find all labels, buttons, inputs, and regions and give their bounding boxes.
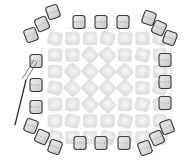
fill-bead (117, 113, 134, 129)
fill-bead (80, 62, 99, 81)
fill-bead (47, 30, 64, 46)
fill-bead (99, 30, 116, 46)
edge-beads (23, 4, 178, 156)
fill-bead (63, 62, 82, 81)
fill-bead (98, 62, 117, 81)
fill-bead (98, 45, 117, 64)
needle-icon (15, 80, 26, 125)
fill-bead (66, 49, 80, 62)
needle-and-thread (15, 60, 37, 125)
fill-bead (136, 115, 150, 128)
fill-bead (83, 115, 97, 128)
edge-bead (95, 16, 107, 29)
edge-bead (34, 16, 50, 33)
fill-bead (118, 32, 132, 45)
fill-bead (134, 47, 151, 63)
edge-bead (159, 76, 171, 89)
fill-bead (136, 32, 150, 45)
fill-bead (48, 49, 62, 62)
beadwork-diagram (0, 0, 188, 165)
fill-bead (98, 78, 117, 97)
edge-bead (23, 27, 39, 43)
edge-bead (30, 55, 42, 68)
edge-bead (34, 129, 50, 146)
fill-bead (118, 98, 132, 111)
fill-bead (115, 62, 134, 81)
fill-bead (63, 78, 82, 97)
edge-bead (159, 97, 171, 110)
fill-bead (101, 115, 115, 128)
fill-bead (80, 45, 99, 64)
fill-bead (66, 98, 80, 111)
fill-bead (134, 96, 151, 112)
edge-bead (23, 118, 39, 134)
fill-beads (47, 30, 169, 145)
fill-bead (64, 113, 81, 129)
edge-bead (30, 101, 42, 114)
edge-bead (117, 16, 129, 29)
fill-bead (47, 80, 64, 96)
edge-bead (45, 4, 61, 20)
edge-bead (118, 137, 130, 150)
fill-bead (136, 82, 150, 95)
edge-bead (73, 16, 85, 29)
fill-bead (136, 65, 150, 78)
fill-bead (48, 115, 62, 128)
fill-bead (98, 95, 117, 114)
fill-bead (48, 65, 62, 78)
fill-bead (66, 32, 80, 45)
fill-bead (80, 95, 99, 114)
edge-bead (30, 79, 42, 92)
fill-bead (83, 32, 97, 45)
fill-bead (115, 78, 134, 97)
edge-bead (95, 137, 107, 150)
fill-bead (80, 78, 99, 97)
fill-bead (48, 98, 62, 111)
edge-bead (159, 54, 171, 67)
edge-bead (74, 137, 86, 150)
fill-bead (118, 49, 132, 62)
